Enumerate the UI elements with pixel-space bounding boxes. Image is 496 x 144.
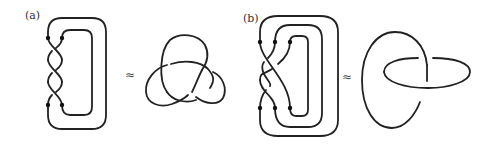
braid-endpoint-dot bbox=[46, 36, 50, 40]
braid-closure-b bbox=[258, 16, 338, 136]
braid-endpoint-dot bbox=[258, 106, 262, 110]
braid-endpoint-dot bbox=[288, 106, 292, 110]
braid-endpoint-dot bbox=[258, 40, 262, 44]
hopf-link bbox=[362, 32, 470, 128]
knot-diagram-figure: (a) ≈ bbox=[0, 0, 496, 144]
braid-endpoint-dot bbox=[273, 40, 277, 44]
equivalence-symbol-a: ≈ bbox=[125, 68, 135, 82]
panel-b-label: (b) bbox=[243, 12, 259, 25]
braid-endpoint-dot bbox=[288, 40, 292, 44]
panel-a: (a) ≈ bbox=[25, 9, 225, 129]
braid-endpoint-dot bbox=[60, 36, 64, 40]
trefoil-knot bbox=[146, 35, 225, 105]
panel-b: (b) ≈ bbox=[243, 12, 470, 136]
braid-closure-a bbox=[46, 18, 106, 129]
braid-endpoint-dot bbox=[46, 103, 50, 107]
panel-a-label: (a) bbox=[25, 9, 40, 22]
equivalence-symbol-b: ≈ bbox=[342, 70, 352, 84]
braid-endpoint-dot bbox=[60, 103, 64, 107]
braid-endpoint-dot bbox=[273, 106, 277, 110]
